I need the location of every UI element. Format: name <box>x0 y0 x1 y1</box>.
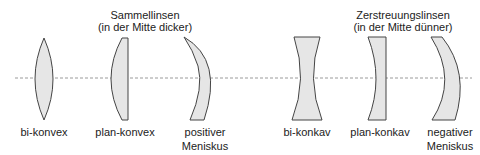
label-positiver-meniskus: positiver Meniskus <box>170 125 240 153</box>
converging-heading: Sammellinsen (in der Mitte dicker) <box>60 9 230 33</box>
converging-subtitle: (in der Mitte dicker) <box>60 21 230 33</box>
label-bi-konvex: bi-konvex <box>9 125 79 139</box>
diverging-heading: Zerstreuungslinsen (in der Mitte dünner) <box>318 9 480 33</box>
converging-title: Sammellinsen <box>60 9 230 21</box>
label-bi-konkav: bi-konkav <box>272 125 342 139</box>
lens-bi-konvex <box>35 38 53 120</box>
diverging-subtitle: (in der Mitte dünner) <box>318 21 480 33</box>
label-plan-konvex: plan-konvex <box>85 125 165 139</box>
label-negativer-meniskus: negativer Meniskus <box>415 125 480 153</box>
diverging-title: Zerstreuungslinsen <box>318 9 480 21</box>
label-plan-konkav: plan-konkav <box>340 125 420 139</box>
lens-plan-konvex <box>111 38 128 120</box>
